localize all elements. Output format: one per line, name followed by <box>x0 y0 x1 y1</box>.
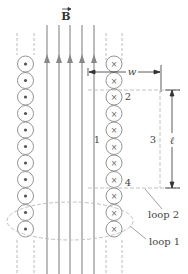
svg-text:×: × <box>111 159 118 168</box>
width-dimension <box>88 65 161 92</box>
length-label: ℓ <box>170 135 174 146</box>
svg-text:×: × <box>111 176 118 185</box>
field-label-b: B <box>61 10 70 23</box>
right-column-wires-cross: ××× ××× ××× ×× <box>106 56 122 237</box>
svg-text:×: × <box>111 192 118 201</box>
svg-text:×: × <box>111 143 118 152</box>
svg-text:×: × <box>111 60 118 69</box>
svg-text:×: × <box>111 225 118 234</box>
svg-text:×: × <box>111 209 118 218</box>
side-label-1: 1 <box>94 134 100 145</box>
side-label-2: 2 <box>125 91 131 102</box>
side-label-4: 4 <box>125 177 131 188</box>
loop-2-rectangle <box>88 90 180 188</box>
width-label: w <box>128 66 137 77</box>
side-label-3: 3 <box>150 134 156 145</box>
svg-text:×: × <box>111 126 118 135</box>
svg-text:×: × <box>111 93 118 102</box>
svg-text:×: × <box>111 77 118 86</box>
loop-2-label: loop 2 <box>148 209 179 220</box>
svg-text:×: × <box>111 110 118 119</box>
solenoid-diagram: B ××× ××× ××× ×× w <box>0 0 188 274</box>
loop-1-label: loop 1 <box>149 236 180 247</box>
